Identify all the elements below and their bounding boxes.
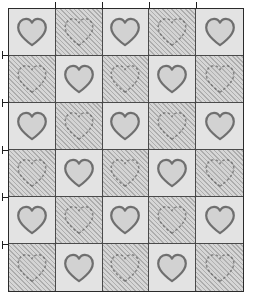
heart-icon [108, 204, 142, 236]
quilt-patch-hatch-r4-c5 [196, 150, 243, 197]
quilt-patch-hatch-r1-c4 [149, 9, 196, 56]
heart-icon [15, 110, 49, 142]
heart-icon [203, 204, 237, 236]
heart-icon [203, 110, 237, 142]
quilt-patch-light-r4-c2 [56, 150, 103, 197]
quilt-patch-light-r1-c1 [9, 9, 56, 56]
quilt-patch-light-r5-c1 [9, 197, 56, 244]
quilt-patch-hatch-r3-c4 [149, 103, 196, 150]
heart-icon [15, 157, 49, 189]
heart-icon [203, 63, 237, 95]
row-tick-cap-3 [2, 146, 3, 154]
quilt-patch-light-r1-c5 [196, 9, 243, 56]
quilt-patch-hatch-r5-c4 [149, 197, 196, 244]
heart-icon [155, 16, 189, 48]
heart-icon [203, 16, 237, 48]
heart-icon [15, 252, 49, 284]
row-tick-cap-2 [2, 99, 3, 107]
heart-icon [108, 157, 142, 189]
quilt-patch-light-r6-c2 [56, 244, 103, 291]
heart-icon [155, 204, 189, 236]
row-tick-cap-4 [2, 193, 3, 201]
heart-icon [155, 157, 189, 189]
quilt-patch-light-r2-c4 [149, 56, 196, 103]
heart-icon [108, 110, 142, 142]
quilt-patch-light-r1-c3 [103, 9, 150, 56]
quilt-patch-hatch-r5-c2 [56, 197, 103, 244]
quilt-grid [9, 9, 243, 291]
quilt-patch-hatch-r4-c3 [103, 150, 150, 197]
heart-icon [62, 204, 96, 236]
quilt-patch-light-r6-c4 [149, 244, 196, 291]
quilt-patch-light-r3-c3 [103, 103, 150, 150]
quilt-patch-hatch-r4-c1 [9, 150, 56, 197]
heart-icon [62, 110, 96, 142]
heart-icon [155, 252, 189, 284]
heart-icon [155, 63, 189, 95]
heart-icon [62, 157, 96, 189]
heart-icon [203, 157, 237, 189]
heart-icon [108, 252, 142, 284]
row-tick-cap-5 [2, 241, 3, 249]
heart-icon [62, 63, 96, 95]
quilt-patch-hatch-r1-c2 [56, 9, 103, 56]
quilt-frame [8, 8, 244, 292]
heart-icon [15, 16, 49, 48]
quilt-patch-hatch-r6-c1 [9, 244, 56, 291]
quilt-patch-hatch-r2-c3 [103, 56, 150, 103]
quilt-diagram-canvas [0, 0, 254, 302]
quilt-patch-light-r3-c1 [9, 103, 56, 150]
quilt-patch-hatch-r6-c3 [103, 244, 150, 291]
row-tick-cap-1 [2, 51, 3, 59]
heart-icon [155, 110, 189, 142]
quilt-patch-hatch-r2-c5 [196, 56, 243, 103]
quilt-patch-light-r5-c3 [103, 197, 150, 244]
quilt-patch-light-r2-c2 [56, 56, 103, 103]
heart-icon [62, 16, 96, 48]
quilt-patch-light-r4-c4 [149, 150, 196, 197]
quilt-patch-hatch-r6-c5 [196, 244, 243, 291]
heart-icon [203, 252, 237, 284]
heart-icon [108, 63, 142, 95]
quilt-patch-hatch-r2-c1 [9, 56, 56, 103]
quilt-patch-light-r5-c5 [196, 197, 243, 244]
heart-icon [15, 204, 49, 236]
quilt-patch-light-r3-c5 [196, 103, 243, 150]
heart-icon [108, 16, 142, 48]
heart-icon [15, 63, 49, 95]
quilt-patch-hatch-r3-c2 [56, 103, 103, 150]
heart-icon [62, 252, 96, 284]
